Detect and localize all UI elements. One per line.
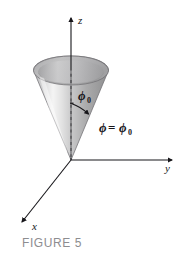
phi-equation-subscript: 0 [128,128,132,137]
figure-container: z y x ϕ 0 ϕ = ϕ 0 FIGURE 5 [0,0,186,257]
x-axis-label: x [31,220,37,232]
phi-equation-label: ϕ = ϕ 0 [99,120,132,137]
y-axis-label: y [164,162,170,174]
phi-equation-lhs: ϕ [99,120,107,135]
phi-symbol: ϕ [78,88,86,103]
x-axis [22,160,71,222]
phi-equation-equals: = [108,120,115,135]
phi-equation-rhs: ϕ [119,120,127,135]
phi-subscript: 0 [87,96,91,105]
figure-caption: FIGURE 5 [22,236,82,250]
cone-spherical-coordinates-diagram: z y x ϕ 0 ϕ = ϕ 0 [0,0,186,257]
z-axis-label: z [77,14,83,26]
